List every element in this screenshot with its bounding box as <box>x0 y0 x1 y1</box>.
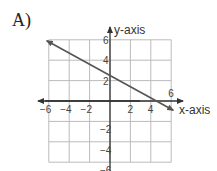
svg-text:−4: −4 <box>60 104 72 115</box>
svg-text:−2: −2 <box>100 124 112 135</box>
y-axis-label: y-axis <box>114 23 145 37</box>
svg-text:−6: −6 <box>40 104 52 115</box>
coordinate-plane: −6−4−2246642−2−4−6 x-axis y-axis <box>0 0 217 171</box>
x-axis-label: x-axis <box>179 103 210 117</box>
svg-text:−4: −4 <box>100 145 112 156</box>
tick-labels: −6−4−2246642−2−4−6 <box>40 35 174 171</box>
svg-text:4: 4 <box>148 104 154 115</box>
svg-text:6: 6 <box>103 35 109 46</box>
svg-text:4: 4 <box>103 55 109 66</box>
svg-text:6: 6 <box>168 88 174 99</box>
svg-text:−2: −2 <box>81 104 93 115</box>
svg-text:2: 2 <box>127 104 133 115</box>
svg-text:−6: −6 <box>100 165 112 171</box>
svg-text:2: 2 <box>103 76 109 87</box>
